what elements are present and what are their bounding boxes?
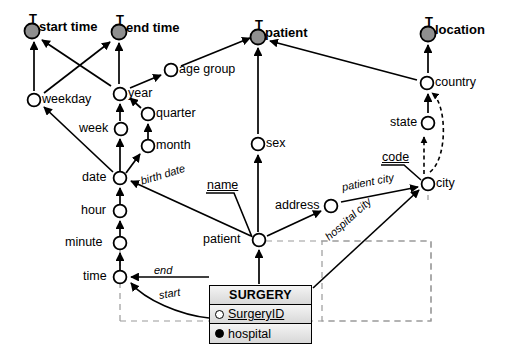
node-minute [114,237,127,250]
entity-attribute-row-hospital[interactable]: hospital [210,324,311,343]
node-label-city: city [436,177,455,190]
entity-attribute-label-surgeryid: SurgeryID [228,307,284,321]
node-patient [253,234,266,247]
node-label-week: week [79,122,108,135]
node-label-patient: patient [203,233,241,246]
filled-circle-icon [215,329,224,338]
entity-attribute-row-surgeryid[interactable]: SurgeryID [210,305,311,324]
node-label-date: date [82,171,106,184]
t-marker-patient: T [255,18,263,31]
t-marker-start-time: T [29,12,37,25]
edges-location [270,41,428,113]
node-time [114,271,127,284]
attribute-label-name: name [207,179,238,192]
node-date [114,172,127,185]
node-label-patient-top: patient [265,26,308,39]
node-label-time: time [83,270,107,283]
edge-label-end: end [154,265,172,276]
node-label-state: state [390,116,417,129]
node-label-country: country [435,76,476,89]
node-hour [114,205,127,218]
edge-country-patienttop [270,41,417,80]
edge-date-weekday [44,107,113,172]
entity-title-row: SURGERY [210,286,311,305]
edge-weekday-endtime [44,42,110,93]
connector-name-patient [206,193,252,237]
node-label-weekday: weekday [42,93,91,106]
node-label-month: month [156,139,191,152]
entity-title-text: SURGERY [229,288,292,302]
node-label-sex: sex [266,137,285,150]
hollow-circle-icon [215,310,224,319]
node-quarter [142,108,155,121]
entity-attribute-label-hospital: hospital [228,327,271,341]
node-address [325,200,338,213]
edge-year-starttime [42,40,111,86]
edge-patient-address [267,211,321,236]
node-month [142,140,155,153]
node-label-end-time: end time [126,21,179,34]
node-sex [252,138,265,151]
node-label-minute: minute [65,236,103,249]
node-label-location: location [435,23,485,36]
dashed-region-inner [322,241,431,321]
node-age-group [165,64,178,77]
edge-city-country-dashed [430,93,443,172]
node-label-address: address [275,199,319,212]
node-weekday [28,94,41,107]
node-label-quarter: quarter [156,107,196,120]
entity-surgery[interactable]: SURGERY SurgeryID hospital [209,285,312,344]
edge-date-month [126,154,140,173]
node-label-age-group: age group [179,63,235,76]
t-marker-location: T [425,15,433,28]
node-week [115,123,128,136]
node-label-year: year [128,87,152,100]
node-city [422,178,435,191]
schema-diagram-canvas: T T T T start time end time patient loca… [0,0,506,358]
edges-location-dashed [424,93,443,174]
node-label-hour: hour [81,204,106,217]
node-country [421,77,434,90]
attribute-label-code: code [382,151,409,164]
node-year [114,88,127,101]
node-label-start-time: start time [39,20,98,33]
node-state [422,117,435,130]
t-marker-end-time: T [116,13,124,26]
